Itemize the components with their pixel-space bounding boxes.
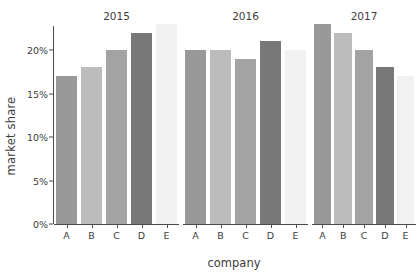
x-tick-slot: E [154,225,179,241]
x-tick-slot: A [312,225,333,241]
bar-slot [283,50,308,224]
y-tick-mark [49,50,53,51]
y-tick-label: 10% [18,132,48,143]
x-tick-mark [142,225,143,228]
y-tick-label: 15% [18,88,48,99]
bar-2015-C[interactable] [106,50,127,224]
bar-slot [258,41,283,224]
bar-slot [395,76,416,224]
bar-slot [354,50,375,224]
x-tick-slot: C [104,225,129,241]
x-axis-ticks-2017: ABCDE [312,225,416,241]
bar-slot [233,59,258,224]
x-tick-slot: D [258,225,283,241]
x-tick-slot: A [183,225,208,241]
bar-2017-A[interactable] [314,24,331,224]
x-tick-slot: E [395,225,416,241]
y-tick-mark [49,93,53,94]
x-axis-label: company [53,256,415,270]
bar-group-2015 [54,26,179,224]
bar-slot [54,76,79,224]
y-tick-mark [49,137,53,138]
x-tick-slot: B [79,225,104,241]
bar-slot [104,50,129,224]
panel-title-2016: 2016 [183,10,308,22]
x-axis-ticks-2016: ABCDE [183,225,308,241]
y-tick-label: 0% [18,219,48,230]
x-tick-slot: D [129,225,154,241]
bar-2015-A[interactable] [56,76,77,224]
bar-slot [183,50,208,224]
x-tick-mark [296,225,297,228]
x-tick-mark [385,225,386,228]
y-tick-mark [49,180,53,181]
bar-2017-B[interactable] [334,33,351,224]
bar-2016-A[interactable] [185,50,206,224]
plot-area-2015: ABCDE [54,26,179,224]
bar-slot [79,67,104,224]
x-tick-slot: C [233,225,258,241]
bar-group-2017 [312,26,416,224]
bar-2016-C[interactable] [235,59,256,224]
x-tick-mark [167,225,168,228]
x-tick-mark [117,225,118,228]
plot-area-2017: ABCDE [312,26,416,224]
y-tick-label: 5% [18,175,48,186]
panel-2015: 2015 ABCDE [54,0,179,272]
bar-2017-C[interactable] [355,50,372,224]
x-tick-mark [196,225,197,228]
panel-title-2015: 2015 [54,10,179,22]
panel-2017: 2017 ABCDE [312,0,416,272]
x-axis-ticks-2015: ABCDE [54,225,179,241]
bar-slot [374,67,395,224]
x-tick-slot: A [54,225,79,241]
bar-2016-D[interactable] [260,41,281,224]
x-tick-mark [271,225,272,228]
x-tick-slot: B [333,225,354,241]
x-tick-slot: E [283,225,308,241]
x-tick-mark [92,225,93,228]
bar-slot [154,24,179,224]
bar-2016-B[interactable] [210,50,231,224]
bar-2017-D[interactable] [376,67,393,224]
x-tick-mark [246,225,247,228]
panel-title-2017: 2017 [312,10,416,22]
panel-2016: 2016 ABCDE [183,0,308,272]
y-tick-mark [49,224,53,225]
x-tick-slot: B [208,225,233,241]
bar-2016-E[interactable] [285,50,306,224]
bar-slot [129,33,154,224]
bar-group-2016 [183,26,308,224]
bar-2015-E[interactable] [156,24,177,224]
x-tick-mark [221,225,222,228]
x-tick-slot: D [374,225,395,241]
x-tick-mark [67,225,68,228]
x-tick-slot: C [354,225,375,241]
bar-chart-figure: market share 0%5%10%15%20% 2015 ABCDE 20… [0,0,419,272]
y-tick-label: 20% [18,45,48,56]
x-tick-mark [364,225,365,228]
bar-slot [312,24,333,224]
bar-2017-E[interactable] [397,76,414,224]
x-tick-mark [406,225,407,228]
plot-area-2016: ABCDE [183,26,308,224]
bar-2015-D[interactable] [131,33,152,224]
bar-slot [208,50,233,224]
bar-slot [333,33,354,224]
x-tick-mark [322,225,323,228]
bar-2015-B[interactable] [81,67,102,224]
y-axis-tick-labels: 0%5%10%15%20% [18,0,48,272]
x-tick-mark [343,225,344,228]
